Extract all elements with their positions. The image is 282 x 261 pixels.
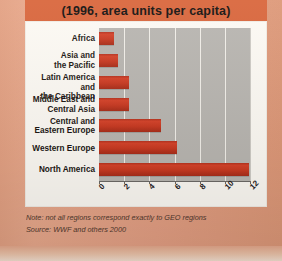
bar <box>99 163 249 176</box>
tick-label: 2 <box>122 182 132 192</box>
tick-label: 6 <box>173 182 183 192</box>
bar-row <box>99 115 250 137</box>
bar-row <box>99 28 250 50</box>
category-label: Asia and the Pacific <box>25 51 95 70</box>
category-label: North America <box>25 165 95 174</box>
category-label: Middle East and Central Asia <box>25 95 95 114</box>
chart-card: AfricaAsia and the PacificLatin America … <box>25 21 267 207</box>
bar <box>99 141 177 154</box>
category-axis-labels: AfricaAsia and the PacificLatin America … <box>25 28 95 181</box>
bar-row <box>99 94 250 116</box>
category-label: Central and Eastern Europe <box>25 117 95 136</box>
plot-area <box>99 28 250 181</box>
bar-row <box>99 72 250 94</box>
tick-label: 0 <box>97 182 107 192</box>
gridline <box>250 28 251 181</box>
bar <box>99 119 161 132</box>
bar-row <box>99 137 250 159</box>
note-line: Note: not all regions correspond exactly… <box>26 212 266 224</box>
chart-title-band: (1996, area units per capita) <box>25 0 267 21</box>
bottom-strip <box>0 246 282 261</box>
tick-label: 4 <box>147 182 157 192</box>
bar <box>99 98 129 111</box>
bar <box>99 32 114 45</box>
category-label: Africa <box>25 34 95 43</box>
tick-label: 8 <box>198 182 208 192</box>
chart-notes: Note: not all regions correspond exactly… <box>26 212 266 236</box>
bar <box>99 54 118 67</box>
bar-series <box>99 28 250 181</box>
bar <box>99 76 129 89</box>
page-title: (1996, area units per capita) <box>61 4 230 18</box>
source-line: Source: WWF and others 2000 <box>26 224 266 236</box>
bar-row <box>99 159 250 181</box>
bar-row <box>99 50 250 72</box>
figure-panel: (1996, area units per capita) AfricaAsia… <box>0 0 282 261</box>
category-label: Western Europe <box>25 144 95 153</box>
